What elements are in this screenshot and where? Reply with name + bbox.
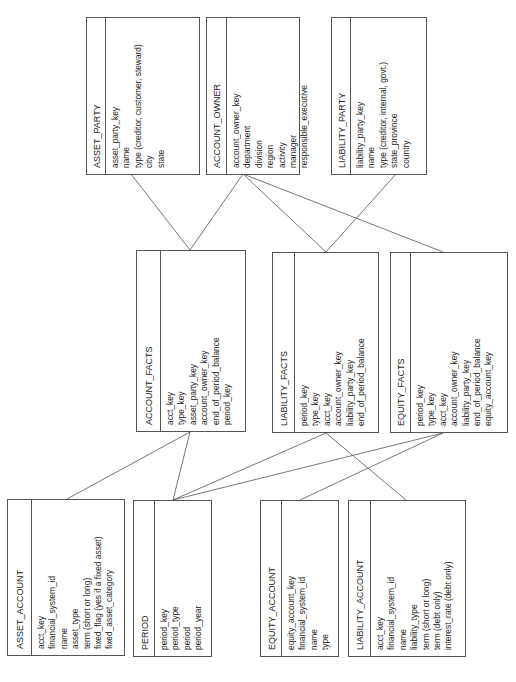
relationship-line-liability_facts-liability_account [326,433,406,500]
entity-field: division [254,85,265,168]
entity-field: city [144,44,155,168]
entity-field: account_owner_key [199,337,210,425]
entity-account-facts: ACCOUNT_FACTS acct_keytype_keyasset_part… [136,250,246,432]
relationship-line-account_owner-liability_facts [243,174,326,252]
entity-title: LIABILITY_FACTS [279,351,288,426]
entity-title: ASSET_ACCOUNT [15,570,24,649]
entity-field: liability_type [409,562,420,650]
entity-field: asset_party_key [110,44,121,168]
entity-field: financial_system_id [386,562,397,650]
entity-fields: period_keytype_keyacct_keyaccount_owner_… [295,253,378,432]
entity-field: financial_system_id [47,536,58,649]
entity-field: region [265,85,276,168]
entity-field: type_key [426,338,437,426]
entity-header: ASSET_PARTY [87,18,106,174]
entity-title: LIABILITY_PARTY [337,93,346,168]
relationship-line-asset_party-account_facts [131,174,190,250]
entity-field: period_key [299,338,310,426]
entity-field: period [182,606,193,650]
entity-field: department [242,85,253,168]
entity-fields: asset_party_keynametype (creditor, custo… [106,18,199,174]
entity-title: LIABILITY_ACCOUNT [355,559,364,650]
relationship-line-liability_facts-period [173,433,326,500]
entity-liability-facts: LIABILITY_FACTS period_keytype_keyacct_k… [272,252,379,433]
entity-field: acct_key [36,536,47,649]
entity-header: PERIOD [134,501,155,656]
entity-fields: period_keyperiod_typeperiodperiod_year [155,501,211,656]
entity-liability-account: LIABILITY_ACCOUNT acct_keyfinancial_syst… [348,500,466,657]
entity-field: asset_type [70,536,81,649]
relationship-line-account_owner-equity_facts [243,174,443,252]
entity-header: ASSET_ACCOUNT [8,500,32,655]
entity-field: type (creditor, internal, govt.) [378,62,389,168]
entity-title: PERIOD [140,615,149,650]
entity-field: end_of_period_balance [472,338,483,426]
entity-field: term (short or long) [82,536,93,649]
entity-field: liability_party_key [355,62,366,168]
entity-asset-account: ASSET_ACCOUNT acct_keyfinancial_system_i… [7,499,125,656]
field-list: period_keytype_keyacct_keyaccount_owner_… [299,338,305,426]
entity-field: type [320,576,331,650]
entity-title: ACCOUNT_OWNER [212,84,221,168]
entity-field: state_province [389,62,400,168]
entity-field: responsible_executive [299,85,310,168]
entity-field: term (short or long) [421,562,432,650]
entity-field: acct_key [322,338,333,426]
entity-field: liability_party_key [461,338,472,426]
entity-header: LIABILITY_ACCOUNT [349,501,371,656]
entity-header: ACCOUNT_OWNER [207,18,227,174]
entity-header: LIABILITY_FACTS [273,253,295,432]
entity-field: manager [288,85,299,168]
field-list: liability_party_keynametype (creditor, i… [355,62,361,168]
entity-field: name [121,44,132,168]
entity-fields: acct_keyfinancial_system_idnameliability… [371,501,465,656]
relationship-line-account_facts-asset_account [67,432,190,499]
entity-field: name [309,576,320,650]
entity-field: country [401,62,412,168]
entity-fields: account_owner_keydepartmentdivisionregio… [227,18,299,174]
entity-field: end_of_period_balance [211,337,222,425]
entity-period: PERIOD period_keyperiod_typeperiodperiod… [133,500,212,657]
entity-fields: equity_account_keyfinancial_system_idnam… [282,501,338,656]
entity-field: type (creditor, customer, steward) [133,44,144,168]
entity-asset-party: ASSET_PARTY asset_party_keynametype (cre… [86,17,200,175]
entity-field: acct_key [375,562,386,650]
entity-title: ASSET_PARTY [92,104,101,168]
entity-account-owner: ACCOUNT_OWNER account_owner_keydepartmen… [206,17,300,175]
entity-title: EQUITY_FACTS [396,358,405,426]
entity-field: account_owner_key [231,85,242,168]
field-list: asset_party_keynametype (creditor, custo… [110,44,116,168]
relationship-line-equity_facts-equity_account [300,433,443,500]
field-list: equity_account_keyfinancial_system_idnam… [286,576,292,650]
field-list: period_keyperiod_typeperiodperiod_year [159,606,165,650]
entity-fields: period_keytype_keyacct_keyaccount_owner_… [411,253,507,432]
entity-field: term (debt only) [432,562,443,650]
entity-field: name [59,536,70,649]
field-list: acct_keytype_keyasset_party_keyaccount_o… [165,337,171,425]
entity-field: end_of_period_balance [356,338,367,426]
relationship-line-liability_party-liability_facts [326,174,396,252]
entity-liability-party: LIABILITY_PARTY liability_party_keynamet… [331,17,427,175]
entity-field: period_key [415,338,426,426]
entity-field: activity [277,85,288,168]
entity-field: account_owner_key [333,338,344,426]
field-list: period_keytype_keyacct_keyaccount_owner_… [415,338,421,426]
entity-equity-account: EQUITY_ACCOUNT equity_account_keyfinanci… [260,500,339,657]
entity-header: LIABILITY_PARTY [332,18,351,174]
entity-field: period_key [222,337,233,425]
entity-field: interest_rate (debt only) [443,562,454,650]
entity-header: ACCOUNT_FACTS [137,251,161,431]
entity-field: equity_account_key [286,576,297,650]
field-list: account_owner_keydepartmentdivisionregio… [231,85,237,168]
entity-field: account_owner_key [449,338,460,426]
entity-field: period_key [159,606,170,650]
entity-field: period_type [170,606,181,650]
entity-equity-facts: EQUITY_FACTS period_keytype_keyacct_keya… [390,252,508,433]
entity-fields: liability_party_keynametype (creditor, i… [351,18,426,174]
relationship-line-equity_facts-period [173,433,443,500]
entity-field: acct_key [438,338,449,426]
entity-field: type_key [310,338,321,426]
entity-field: acct_key [165,337,176,425]
entity-fields: acct_keytype_keyasset_party_keyaccount_o… [161,251,245,431]
entity-fields: acct_keyfinancial_system_idnameasset_typ… [32,500,124,655]
